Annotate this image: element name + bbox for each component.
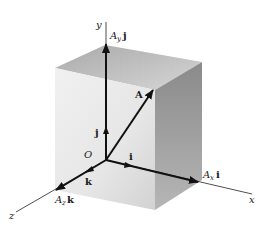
z-component-label: A z k bbox=[54, 194, 75, 207]
svg-text:A: A bbox=[202, 169, 210, 180]
svg-text:A: A bbox=[109, 30, 117, 41]
z-axis-label: z bbox=[8, 210, 15, 221]
x-axis-label: x bbox=[249, 194, 255, 205]
svg-text:y: y bbox=[116, 35, 122, 43]
svg-text:z: z bbox=[61, 199, 66, 207]
y-axis-label: y bbox=[95, 19, 102, 30]
x-component-label: A x i bbox=[202, 169, 220, 182]
y-component-label: A y j bbox=[109, 30, 127, 43]
vector-A-label: A bbox=[134, 89, 143, 100]
svg-text:j: j bbox=[122, 30, 127, 41]
unit-i-label: i bbox=[129, 151, 133, 162]
origin-label: O bbox=[84, 149, 92, 160]
vector-components-diagram: y x z O j i k A A y j A x i A z k bbox=[0, 0, 276, 229]
svg-text:i: i bbox=[216, 169, 220, 180]
svg-text:k: k bbox=[67, 194, 75, 205]
svg-text:x: x bbox=[210, 174, 214, 182]
unit-j-label: j bbox=[94, 127, 99, 138]
unit-k-label: k bbox=[85, 176, 93, 187]
svg-text:A: A bbox=[54, 194, 62, 205]
